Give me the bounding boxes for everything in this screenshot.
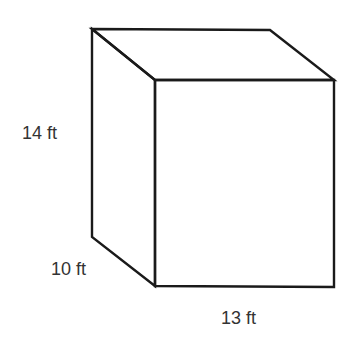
top-face [92,29,334,80]
width-label: 13 ft [221,308,256,328]
height-label: 14 ft [22,123,57,143]
left-side-face [92,29,155,286]
prism-diagram: 14 ft 10 ft 13 ft [0,0,350,357]
depth-label: 10 ft [51,259,86,279]
front-face [155,80,334,287]
